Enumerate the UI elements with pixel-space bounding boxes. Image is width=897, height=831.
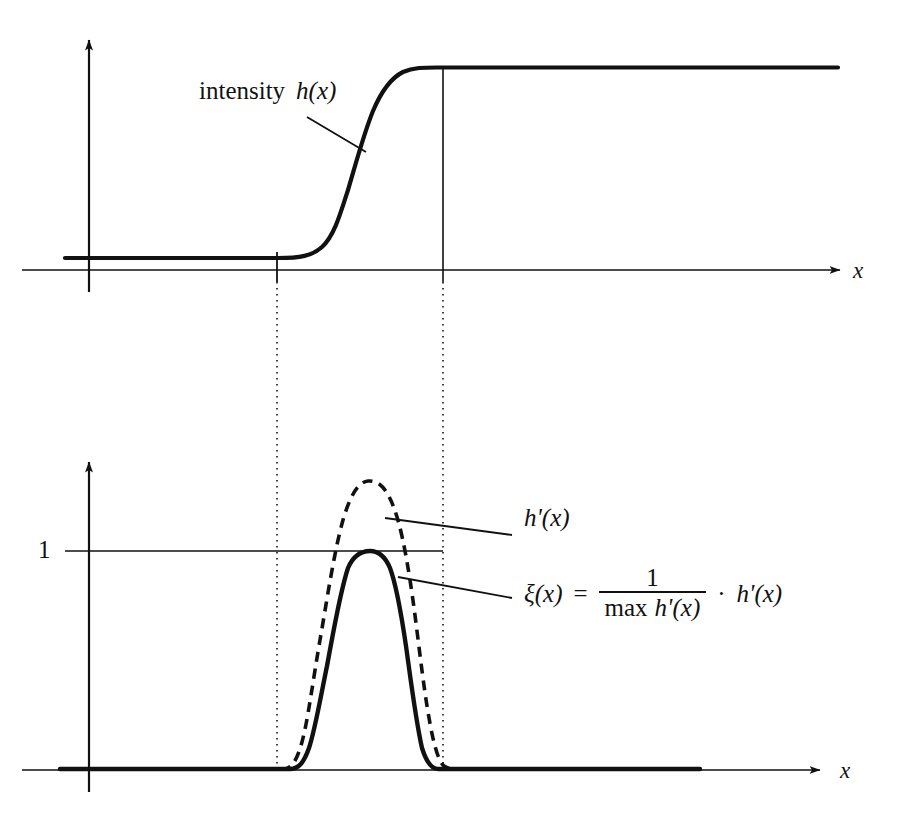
- label-intensity-h: intensityh(x): [199, 78, 336, 103]
- formula-dot: ·: [717, 581, 725, 606]
- bottom-panel: [22, 462, 820, 792]
- leader-line-intensity: [307, 117, 366, 152]
- curve-derivative-h-prime: [60, 481, 700, 769]
- leader-line-h-prime: [385, 518, 512, 535]
- figure-canvas: [0, 0, 897, 831]
- label-xi-formula: ξ(x) = 1 maxh'(x) · h'(x): [524, 566, 782, 621]
- formula-numerator: 1: [599, 565, 707, 591]
- label-intensity-function: h(x): [296, 77, 336, 104]
- formula-denominator: maxh'(x): [599, 593, 707, 620]
- formula-row: ξ(x) = 1 maxh'(x) · h'(x): [524, 566, 782, 621]
- formula-rhs-fn: h'(x): [737, 581, 783, 606]
- formula-lhs: ξ(x): [524, 581, 562, 606]
- formula-fraction: 1 maxh'(x): [599, 565, 707, 620]
- label-h-prime: h'(x): [524, 505, 570, 530]
- formula-denominator-fn: h'(x): [655, 594, 701, 621]
- leader-line-xi: [398, 577, 512, 598]
- figure-container: intensityh(x) x 1 h'(x) ξ(x) = 1 maxh'(x…: [0, 0, 897, 831]
- y-tick-label-one: 1: [38, 537, 51, 562]
- formula-equals: =: [573, 581, 587, 606]
- formula-denominator-max: max: [605, 594, 648, 621]
- top-x-axis-label: x: [853, 259, 863, 282]
- top-panel: [22, 40, 840, 770]
- bottom-x-axis-label: x: [840, 759, 850, 782]
- curve-intensity-h: [65, 67, 838, 258]
- label-intensity-word: intensity: [199, 77, 285, 104]
